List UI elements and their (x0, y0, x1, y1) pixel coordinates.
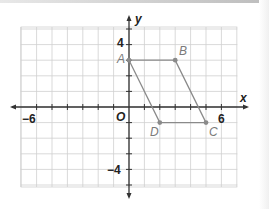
x-tick-label-neg6: −6 (22, 112, 36, 126)
x-tick-label-6: 6 (218, 112, 225, 126)
x-axis-left-arrow-icon (10, 105, 16, 110)
point-b-dot (173, 58, 178, 63)
y-axis-up-arrow-icon (127, 15, 132, 21)
y-tick-label-4: 4 (117, 36, 124, 50)
y-axis-down-arrow-icon (127, 193, 132, 199)
y-tick-label-neg4: −4 (107, 163, 121, 177)
point-label-c: C (209, 125, 218, 139)
point-a-dot (127, 58, 132, 63)
point-label-d: D (150, 125, 159, 139)
axes (10, 15, 249, 199)
point-label-a: A (116, 52, 125, 66)
x-axis-label: x (239, 91, 248, 105)
point-label-b: B (179, 44, 187, 58)
y-axis-label: y (134, 12, 143, 26)
x-axis-right-arrow-icon (243, 105, 249, 110)
origin-label: O (116, 110, 126, 124)
coordinate-plane: y x O −6 6 4 −4 A B C D (0, 0, 269, 209)
point-c-dot (204, 120, 209, 125)
